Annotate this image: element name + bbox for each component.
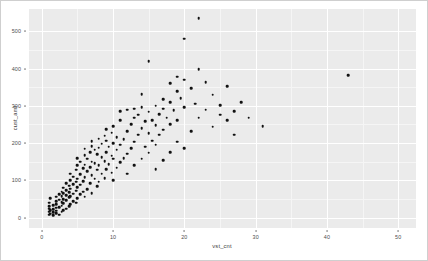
data-point — [65, 207, 68, 210]
data-point — [90, 192, 93, 195]
data-point — [112, 157, 115, 160]
data-point — [103, 160, 106, 163]
data-point — [172, 109, 175, 112]
data-point — [76, 178, 79, 181]
grid-major-vertical — [398, 9, 399, 228]
data-point — [147, 60, 150, 63]
data-point — [83, 195, 86, 198]
data-point — [140, 157, 143, 160]
y-tick-mark — [24, 68, 26, 69]
data-point — [133, 108, 136, 111]
data-point — [194, 102, 197, 105]
grid-minor-vertical — [77, 9, 78, 228]
data-point — [79, 193, 82, 196]
data-point — [60, 204, 63, 207]
data-point — [133, 116, 136, 119]
data-point — [69, 203, 72, 206]
data-point — [226, 119, 229, 122]
data-point — [144, 146, 147, 149]
data-point — [126, 172, 129, 175]
data-point — [119, 143, 122, 146]
data-point — [180, 97, 183, 100]
x-tick-label: 40 — [324, 234, 330, 240]
grid-minor-vertical — [220, 9, 221, 228]
grid-major-horizontal — [29, 31, 416, 32]
data-point — [190, 130, 193, 133]
data-point — [122, 157, 125, 160]
data-point — [105, 168, 108, 171]
data-point — [183, 78, 186, 81]
data-point — [169, 82, 172, 85]
data-point — [183, 147, 186, 150]
data-point — [65, 199, 68, 202]
y-tick-mark — [24, 217, 26, 218]
x-tick-mark — [184, 230, 185, 232]
data-point — [52, 214, 55, 217]
x-tick-label: 0 — [40, 234, 43, 240]
data-point — [75, 189, 78, 192]
data-point — [79, 160, 82, 163]
data-point — [183, 37, 186, 40]
data-point — [55, 210, 58, 213]
grid-minor-vertical — [291, 9, 292, 228]
grid-major-horizontal — [29, 143, 416, 144]
data-point — [72, 192, 75, 195]
data-point — [212, 93, 215, 96]
y-tick-label: 100 — [12, 177, 21, 183]
data-point — [49, 197, 52, 200]
data-point — [69, 187, 72, 190]
data-point — [197, 116, 200, 119]
data-point — [126, 108, 129, 111]
x-tick-label: 20 — [181, 234, 187, 240]
data-point — [126, 152, 129, 155]
data-point — [93, 148, 96, 151]
data-point — [93, 178, 96, 181]
data-point — [96, 185, 99, 188]
data-point — [89, 182, 92, 185]
x-axis-title: vst_cnt — [212, 243, 231, 249]
data-point — [158, 113, 161, 116]
data-point — [76, 157, 79, 160]
data-point — [119, 119, 122, 122]
data-point — [75, 169, 78, 172]
data-point — [137, 113, 140, 116]
data-point — [147, 151, 150, 154]
data-point — [261, 125, 264, 128]
x-tick-label: 10 — [110, 234, 116, 240]
data-point — [140, 93, 143, 96]
data-point — [76, 164, 79, 167]
data-point — [90, 145, 93, 148]
data-point — [72, 175, 75, 178]
data-point — [347, 74, 350, 77]
data-point — [151, 119, 154, 122]
grid-minor-horizontal — [29, 124, 416, 125]
y-tick-label: 0 — [18, 215, 21, 221]
data-point — [82, 167, 85, 170]
data-point — [105, 140, 108, 143]
data-point — [75, 201, 78, 204]
x-tick-mark — [113, 230, 114, 232]
y-axis-ticks: 0100200300400500 — [1, 1, 27, 261]
data-point — [105, 128, 108, 131]
y-tick-mark — [24, 31, 26, 32]
data-point — [119, 161, 122, 164]
data-point — [96, 153, 99, 156]
y-axis-title: cust_amt — [12, 106, 18, 131]
data-point — [115, 148, 118, 151]
y-tick-mark — [24, 143, 26, 144]
data-point — [197, 68, 200, 71]
data-point — [165, 116, 168, 119]
data-point — [89, 166, 92, 169]
data-point — [93, 162, 96, 165]
data-point — [75, 181, 78, 184]
data-point — [176, 90, 179, 93]
y-tick-label: 500 — [12, 28, 21, 34]
grid-minor-vertical — [149, 9, 150, 228]
grid-major-vertical — [327, 9, 328, 228]
data-point — [62, 202, 65, 205]
x-tick-mark — [398, 230, 399, 232]
data-point — [162, 128, 165, 131]
data-point — [79, 173, 82, 176]
data-point — [100, 172, 103, 175]
data-point — [126, 130, 129, 133]
